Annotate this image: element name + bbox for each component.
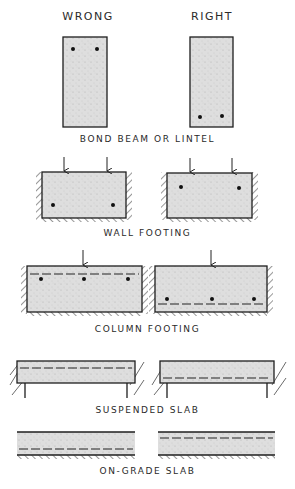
caption-suspended-slab: SUSPENDED SLAB bbox=[40, 405, 255, 415]
caption-bond-beam: BOND BEAM OR LINTEL bbox=[40, 134, 255, 144]
bond-beam-wrong bbox=[63, 37, 107, 127]
caption-on-grade-slab: ON-GRADE SLAB bbox=[40, 466, 255, 476]
suspended-slab-right bbox=[152, 361, 286, 398]
caption-column-footing: COLUMN FOOTING bbox=[40, 324, 255, 334]
wall-footing-wrong bbox=[36, 157, 132, 222]
column-footing-wrong bbox=[21, 250, 148, 316]
caption-wall-footing: WALL FOOTING bbox=[40, 228, 255, 238]
on-grade-slab-wrong bbox=[17, 432, 135, 459]
reinforcement-diagram bbox=[0, 0, 295, 489]
bond-beam-right bbox=[190, 37, 233, 127]
column-footing-right bbox=[149, 250, 273, 316]
wall-footing-right bbox=[161, 158, 258, 222]
suspended-slab-wrong bbox=[10, 361, 144, 398]
on-grade-slab-right bbox=[158, 432, 275, 459]
